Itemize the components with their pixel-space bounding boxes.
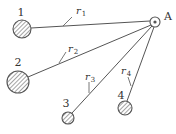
source-dot-icon <box>153 20 156 23</box>
edge-r1: r1 <box>31 5 150 28</box>
hatched-circle-icon <box>62 112 74 124</box>
diagram-canvas: r1r2r3r4 1234 A <box>0 0 176 134</box>
edge-label: r1 <box>76 5 86 18</box>
node-label: 4 <box>118 89 125 102</box>
node-2: 2 <box>7 56 29 93</box>
leader-line <box>128 77 131 86</box>
edge-label: r3 <box>85 71 95 84</box>
edge-line <box>72 26 152 113</box>
node-3: 3 <box>62 97 74 124</box>
leader-line <box>63 17 72 26</box>
edge-label: r2 <box>68 43 78 56</box>
node-label: 1 <box>18 6 25 19</box>
node-1: 1 <box>13 6 31 38</box>
edge-r2: r2 <box>28 25 151 77</box>
edges-group: r1r2r3r4 <box>28 5 154 113</box>
source-label: A <box>163 10 173 23</box>
nodes-group: 1234 <box>7 6 132 124</box>
hatched-circle-icon <box>118 101 132 115</box>
edge-line <box>28 25 151 77</box>
edge-label: r4 <box>121 65 132 78</box>
edge-line <box>31 21 150 28</box>
hatched-circle-icon <box>7 71 29 93</box>
edge-r3: r3 <box>72 26 152 113</box>
source-point-a: A <box>150 10 173 27</box>
edge-r4: r4 <box>121 27 154 101</box>
hatched-circle-icon <box>13 20 31 38</box>
node-label: 3 <box>63 97 70 110</box>
node-label: 2 <box>15 56 22 69</box>
